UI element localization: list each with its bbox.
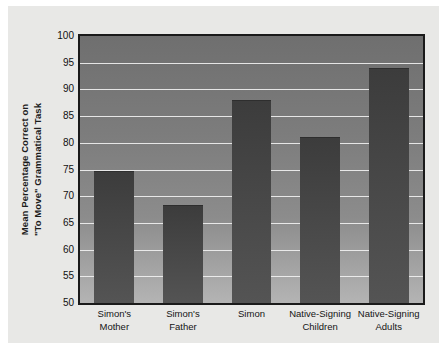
y-tick-label-100: 100	[48, 31, 74, 41]
x-axis-tick-labels: Simon's MotherSimon's FatherSimonNative-…	[78, 308, 425, 342]
y-tick-label-90: 90	[48, 84, 74, 94]
y-tick-label-85: 85	[48, 111, 74, 121]
bar-0	[94, 171, 134, 303]
x-tick-label-4: Native-Signing Adults	[341, 308, 436, 333]
y-tick-label-60: 60	[48, 245, 74, 255]
plot-inner	[80, 36, 423, 303]
y-axis-title: Mean Percentage Correct on"To Move" Gram…	[16, 34, 48, 305]
y-tick-label-80: 80	[48, 138, 74, 148]
bar-4	[369, 68, 409, 303]
y-axis-tick-labels: 10095908580757065605550	[48, 34, 74, 305]
plot-area	[78, 34, 425, 305]
y-axis-title-line-2: "To Move" Grammatical Task	[32, 103, 45, 236]
bar-2	[232, 100, 272, 303]
y-tick-label-75: 75	[48, 165, 74, 175]
y-axis-title-text: Mean Percentage Correct on"To Move" Gram…	[20, 103, 45, 236]
chart-figure: Mean Percentage Correct on"To Move" Gram…	[0, 0, 447, 357]
gridline-95	[80, 63, 423, 64]
y-tick-label-70: 70	[48, 191, 74, 201]
y-tick-label-50: 50	[48, 298, 74, 308]
bar-1	[163, 205, 203, 303]
y-tick-label-55: 55	[48, 271, 74, 281]
bar-3	[300, 137, 340, 303]
y-tick-label-65: 65	[48, 218, 74, 228]
y-axis-title-line-1: Mean Percentage Correct on	[20, 103, 33, 236]
y-tick-label-95: 95	[48, 58, 74, 68]
